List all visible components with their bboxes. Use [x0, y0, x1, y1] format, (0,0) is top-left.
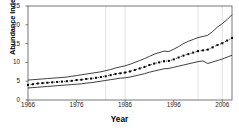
x-tick-label: 1986 — [110, 101, 140, 108]
y-tick-label: 10 — [2, 58, 20, 65]
y-tick-label: 20 — [2, 21, 20, 28]
y-tick-label: 15 — [2, 40, 20, 47]
y-axis-title: Abundance Index — [7, 0, 19, 64]
vertical-gridlines — [106, 6, 223, 100]
axis-tick-marks — [26, 6, 223, 103]
y-tick-label: 25 — [2, 2, 20, 9]
y-tick-label: 0 — [2, 96, 20, 103]
abundance-index-markers — [27, 37, 233, 86]
upper-confidence-line — [28, 15, 232, 80]
x-tick-label: 1976 — [62, 101, 92, 108]
chart-plot-area — [0, 0, 239, 129]
x-tick-label: 2006 — [207, 101, 237, 108]
x-tick-label: 1996 — [159, 101, 189, 108]
x-axis-title: Year — [0, 115, 239, 124]
abundance-index-chart: Abundance Index Year 1966197619861996200… — [0, 0, 239, 129]
y-tick-label: 5 — [2, 77, 20, 84]
